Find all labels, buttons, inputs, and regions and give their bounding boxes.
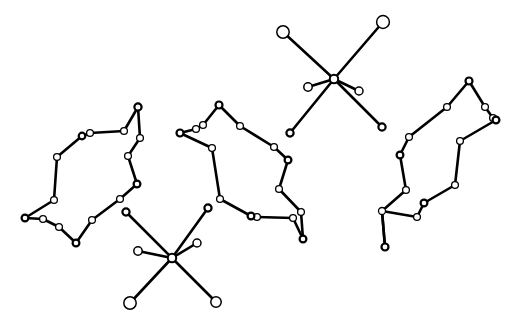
graph-node <box>421 200 428 207</box>
graph-node <box>382 244 389 251</box>
graph-edge <box>279 160 288 189</box>
graph-edge <box>424 185 455 203</box>
graph-node <box>134 103 141 110</box>
edges-layer <box>25 22 496 303</box>
left-ring-nodes <box>22 103 144 246</box>
graph-node <box>124 297 136 309</box>
graph-node <box>493 117 500 124</box>
right-ring-edges <box>382 81 496 247</box>
graph-node <box>379 208 386 215</box>
graph-node <box>216 102 223 109</box>
graph-node <box>137 135 144 142</box>
graph-edge <box>25 200 54 218</box>
graph-node <box>54 154 61 161</box>
graph-node <box>466 78 473 85</box>
graph-node <box>414 214 421 221</box>
graph-node <box>406 134 413 141</box>
graph-edge <box>382 211 417 217</box>
graph-edge <box>460 120 496 141</box>
graph-edge <box>382 211 385 247</box>
graph-node <box>285 157 292 164</box>
graph-diagram <box>0 0 517 328</box>
graph-node <box>452 182 459 189</box>
graph-canvas <box>0 0 517 328</box>
graph-node <box>193 126 200 133</box>
graph-node <box>51 197 58 204</box>
graph-edge <box>180 133 212 148</box>
graph-edge <box>172 258 216 302</box>
graph-edge <box>409 107 447 137</box>
graph-edge <box>126 212 172 258</box>
graph-node <box>204 204 211 211</box>
graph-edge <box>90 131 124 133</box>
graph-edge <box>283 32 334 79</box>
graph-node <box>121 128 128 135</box>
graph-node <box>209 145 216 152</box>
graph-node <box>56 224 63 231</box>
graph-node <box>286 129 293 136</box>
graph-node <box>276 186 283 193</box>
graph-node <box>304 83 312 91</box>
graph-node <box>125 153 132 160</box>
graph-node <box>134 247 142 255</box>
graph-edge <box>257 217 293 218</box>
graph-edge <box>92 199 120 220</box>
graph-node <box>403 187 410 194</box>
graph-edge <box>447 81 469 107</box>
graph-node <box>482 104 489 111</box>
graph-node <box>290 215 297 222</box>
graph-node <box>377 16 390 29</box>
graph-node <box>444 104 451 111</box>
graph-edge <box>400 155 406 190</box>
graph-node <box>378 123 385 130</box>
graph-node <box>298 209 305 216</box>
graph-edge <box>130 258 172 303</box>
graph-edge <box>212 148 220 199</box>
graph-node <box>211 297 221 307</box>
graph-node <box>330 75 338 83</box>
graph-node <box>193 239 201 247</box>
graph-edge <box>334 22 383 79</box>
nodes-layer <box>22 16 500 310</box>
graph-node <box>40 216 47 223</box>
graph-node <box>355 87 363 95</box>
graph-node <box>122 208 129 215</box>
graph-edge <box>220 199 251 216</box>
graph-node <box>134 181 141 188</box>
right-ring-nodes <box>379 78 500 251</box>
graph-node <box>248 213 255 220</box>
graph-edge <box>240 126 274 147</box>
graph-node <box>277 26 289 38</box>
graph-node <box>168 254 176 262</box>
graph-node <box>177 130 184 137</box>
graph-node <box>457 138 464 145</box>
graph-edge <box>54 157 57 200</box>
graph-node <box>79 133 86 140</box>
graph-node <box>271 144 278 151</box>
graph-node <box>89 217 96 224</box>
graph-node <box>22 215 29 222</box>
graph-edge <box>334 79 382 127</box>
graph-edge <box>279 189 301 212</box>
graph-edge <box>57 136 82 157</box>
graph-node <box>73 240 80 247</box>
graph-node <box>200 122 207 129</box>
graph-edge <box>172 208 208 258</box>
graph-node <box>217 196 224 203</box>
middle-ring-nodes <box>177 102 307 243</box>
graph-node <box>117 196 124 203</box>
graph-node <box>87 130 94 137</box>
graph-node <box>237 123 244 130</box>
graph-node <box>397 152 404 159</box>
graph-node <box>300 236 307 243</box>
graph-edge <box>382 190 406 211</box>
graph-edge <box>455 141 460 185</box>
